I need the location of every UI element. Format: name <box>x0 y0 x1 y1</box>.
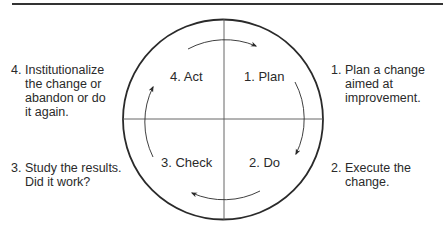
note-number: 4. <box>11 63 21 77</box>
note-text: Plan a change aimed at improvement. <box>345 63 441 105</box>
note-number: 2. <box>331 161 341 175</box>
quadrant-label-act: 4. Act <box>170 69 203 84</box>
note-text: Execute the change. <box>345 161 441 189</box>
quadrant-label-check: 3. Check <box>161 155 213 170</box>
quadrant-label-do: 2. Do <box>249 155 280 170</box>
note-check: 3. Study the results. Did it work? <box>11 161 131 189</box>
arrow-act-to-plan-icon <box>188 40 256 49</box>
note-number: 3. <box>11 161 21 175</box>
note-text: Study the results. Did it work? <box>25 161 131 189</box>
cycle-circle <box>123 20 323 220</box>
note-do: 2. Execute the change. <box>331 161 441 189</box>
note-act: 4. Institutionalize the change or abando… <box>11 63 111 119</box>
arrow-plan-to-do-icon <box>295 82 304 154</box>
quadrant-label-plan: 1. Plan <box>244 69 284 84</box>
arrow-check-to-act-icon <box>145 87 153 157</box>
note-text: Institutionalize the change or abandon o… <box>25 63 111 119</box>
pdca-cycle-diagram: 4. Act 1. Plan 3. Check 2. Do <box>0 0 443 239</box>
note-number: 1. <box>331 63 341 77</box>
arrow-do-to-check-icon <box>192 191 260 200</box>
note-plan: 1. Plan a change aimed at improvement. <box>331 63 441 105</box>
